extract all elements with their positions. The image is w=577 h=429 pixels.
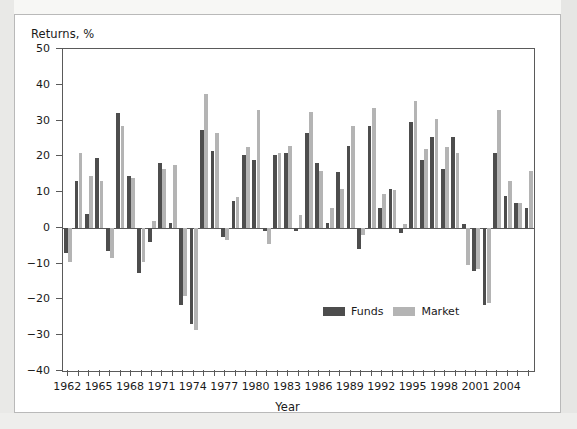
bar-market-2003	[497, 110, 501, 228]
x-tick-label-1974: 1974	[179, 380, 207, 393]
x-tick-label-1971: 1971	[147, 380, 175, 393]
x-tick-2000	[465, 370, 466, 376]
bar-market-1993	[393, 190, 397, 228]
y-tick-label-20: 20	[16, 149, 50, 162]
legend-label-funds: Funds	[351, 305, 383, 318]
bar-market-1963	[79, 153, 83, 228]
bar-market-1983	[288, 146, 292, 228]
bar-market-1964	[89, 176, 93, 228]
y-tick-label-10: 10	[16, 185, 50, 198]
legend-swatch-market-icon	[393, 307, 415, 316]
bar-market-1994	[403, 224, 407, 228]
x-tick-1997	[434, 370, 435, 376]
chart-legend: Funds Market	[323, 305, 459, 318]
chart-figure: Returns, % −40−30−20−1001020304050 19621…	[14, 14, 561, 413]
x-tick-label-1995: 1995	[399, 380, 427, 393]
bar-funds-1970	[148, 228, 152, 242]
x-tick-label-1962: 1962	[53, 380, 81, 393]
bar-market-1967	[121, 126, 125, 228]
x-tick-1979	[245, 370, 246, 376]
x-tick-1966	[109, 370, 110, 376]
bar-market-1984	[299, 215, 303, 228]
x-tick-1983	[287, 370, 288, 376]
x-tick-label-2004: 2004	[493, 380, 521, 393]
x-tick-1995	[413, 370, 414, 376]
x-tick-1976	[214, 370, 215, 376]
bar-market-1980	[257, 110, 261, 228]
bar-market-1999	[456, 153, 460, 228]
x-tick-1993	[392, 370, 393, 376]
x-tick-label-1983: 1983	[273, 380, 301, 393]
y-tick-30	[56, 120, 62, 121]
x-tick-1985	[308, 370, 309, 376]
x-tick-1977	[224, 370, 225, 376]
y-tick-50	[56, 48, 62, 49]
x-tick-1964	[88, 370, 89, 376]
bar-market-1991	[372, 108, 376, 228]
bar-market-1992	[382, 194, 386, 228]
bar-funds-1994	[399, 228, 403, 233]
bar-market-1989	[351, 126, 355, 228]
bar-market-1968	[131, 178, 135, 228]
y-tick-0	[56, 227, 62, 228]
bar-market-2004	[508, 181, 512, 228]
x-tick-1982	[277, 370, 278, 376]
x-tick-label-1998: 1998	[430, 380, 458, 393]
x-tick-1972	[172, 370, 173, 376]
y-tick-label--30: −30	[16, 328, 50, 341]
bar-market-1962	[68, 228, 72, 262]
legend-entry-market: Market	[393, 305, 459, 318]
x-tick-1992	[381, 370, 382, 376]
y-tick-label--10: −10	[16, 256, 50, 269]
bar-market-1971	[162, 169, 166, 228]
zero-line	[63, 228, 534, 229]
page-margin-top	[0, 0, 577, 14]
bar-market-1987	[330, 208, 334, 228]
x-tick-label-1965: 1965	[85, 380, 113, 393]
x-tick-1989	[350, 370, 351, 376]
x-tick-1991	[371, 370, 372, 376]
x-axis-title: Year	[15, 400, 560, 414]
y-tick-label-0: 0	[16, 220, 50, 233]
page-margin-left	[0, 0, 14, 429]
x-tick-1996	[423, 370, 424, 376]
page-margin-bottom	[0, 413, 577, 429]
x-tick-1984	[298, 370, 299, 376]
x-tick-1988	[339, 370, 340, 376]
x-tick-1987	[329, 370, 330, 376]
x-tick-label-1977: 1977	[210, 380, 238, 393]
bars-layer	[63, 49, 534, 371]
y-tick-10	[56, 191, 62, 192]
bar-market-1974	[194, 228, 198, 330]
bar-market-1988	[340, 189, 344, 228]
y-tick--30	[56, 334, 62, 335]
y-tick--10	[56, 263, 62, 264]
y-tick-label-50: 50	[16, 42, 50, 55]
plot-area	[62, 48, 535, 372]
bar-market-1990	[361, 228, 365, 235]
x-tick-label-1980: 1980	[242, 380, 270, 393]
x-tick-1969	[141, 370, 142, 376]
y-tick--20	[56, 298, 62, 299]
x-tick-2003	[496, 370, 497, 376]
x-tick-2004	[507, 370, 508, 376]
bar-market-2002	[487, 228, 491, 303]
x-tick-2001	[475, 370, 476, 376]
x-tick-2002	[486, 370, 487, 376]
bar-market-1965	[100, 181, 104, 228]
x-tick-label-1986: 1986	[304, 380, 332, 393]
bar-market-1972	[173, 165, 177, 228]
y-tick-20	[56, 155, 62, 156]
x-tick-label-1992: 1992	[367, 380, 395, 393]
y-tick-label--20: −20	[16, 292, 50, 305]
x-tick-1971	[161, 370, 162, 376]
bar-funds-1984	[294, 228, 298, 232]
x-tick-label-1968: 1968	[116, 380, 144, 393]
x-tick-2005	[517, 370, 518, 376]
x-tick-1973	[182, 370, 183, 376]
x-tick-1962	[67, 370, 68, 376]
x-tick-1963	[78, 370, 79, 376]
screenshot-root: Returns, % −40−30−20−1001020304050 19621…	[0, 0, 577, 429]
bar-market-1986	[319, 171, 323, 228]
x-tick-1980	[256, 370, 257, 376]
